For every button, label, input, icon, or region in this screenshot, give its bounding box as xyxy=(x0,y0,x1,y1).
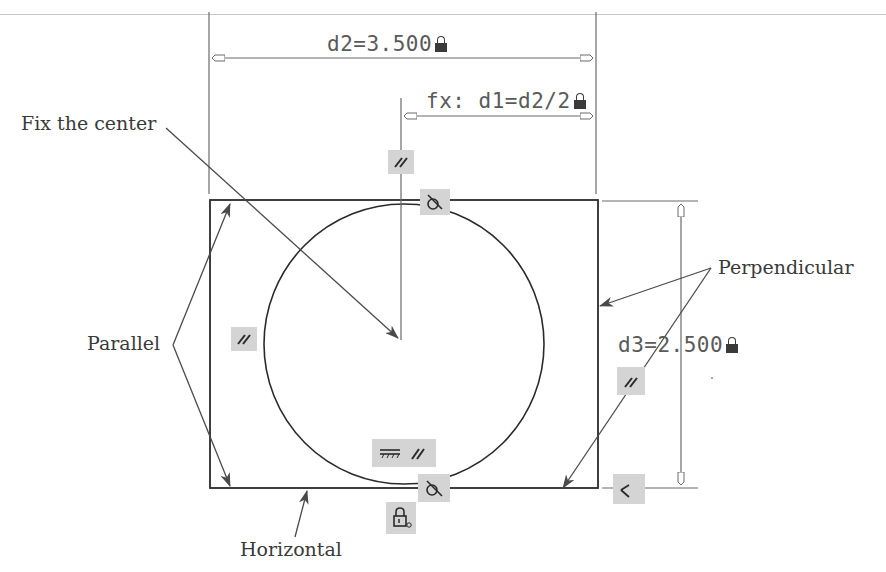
tangent-icon xyxy=(420,189,450,215)
fix-constraint-glyph[interactable] xyxy=(386,502,416,534)
d1-dimension-label[interactable]: fx: d1=d2/2 xyxy=(426,91,586,112)
parallel-leader-bottom xyxy=(173,345,230,486)
perpendicular-constraint-glyph[interactable] xyxy=(613,474,645,504)
parallel-leader-top xyxy=(173,204,230,345)
lock-icon xyxy=(574,93,586,109)
lock-icon xyxy=(726,337,738,353)
fix-center-leader xyxy=(166,128,398,338)
parallel-constraint-glyph[interactable] xyxy=(388,150,414,174)
fix-lock-icon xyxy=(386,502,416,534)
parallel-icon xyxy=(617,367,645,395)
cad-constraint-diagram: d2=3.500 fx: d1=d2/2 d3=2.500 Fix the ce… xyxy=(0,0,886,572)
parallel-constraint-glyph-left[interactable] xyxy=(231,327,257,351)
d3-dimension-label[interactable]: d3=2.500 xyxy=(618,335,738,356)
parallel-constraint-glyph-right[interactable] xyxy=(617,367,645,395)
tangent-constraint-glyph-bottom[interactable] xyxy=(418,474,450,502)
parallel-icon xyxy=(231,327,257,351)
perpendicular-icon xyxy=(613,474,645,504)
horizontal-and-parallel-icon xyxy=(372,439,436,467)
callout-fix-center: Fix the center xyxy=(21,114,156,133)
perpendicular-leader-upper xyxy=(600,268,711,306)
lock-icon xyxy=(435,36,447,52)
callout-horizontal: Horizontal xyxy=(240,540,342,559)
callout-perpendicular: Perpendicular xyxy=(718,258,854,277)
parallel-icon xyxy=(388,150,414,174)
horizontal-parallel-constraint-glyph[interactable] xyxy=(372,439,436,467)
callout-parallel: Parallel xyxy=(87,334,160,353)
tangent-constraint-glyph-top[interactable] xyxy=(420,189,450,215)
tangent-icon xyxy=(418,474,450,502)
d2-dimension-label[interactable]: d2=3.500 xyxy=(327,34,447,55)
horizontal-leader xyxy=(295,491,307,537)
